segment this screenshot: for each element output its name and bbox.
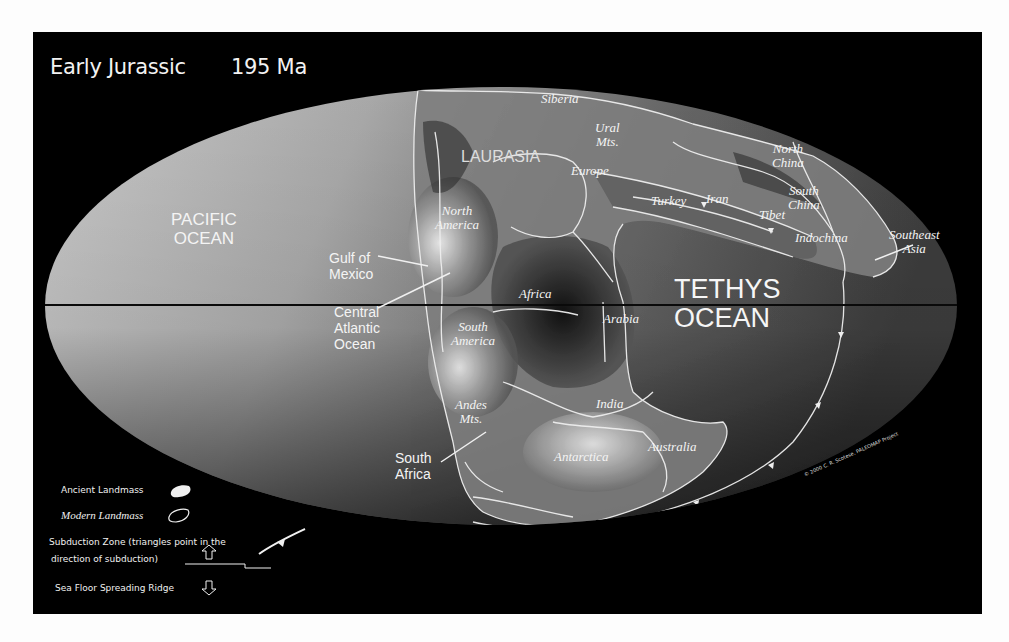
ancient-landmass-swatch [171, 485, 191, 497]
tibet-label: Tibet [759, 208, 785, 222]
iran-label: Iran [706, 192, 728, 206]
map-panel: Early Jurassic 195 Ma [33, 32, 982, 614]
modern-landmass-swatch [169, 509, 189, 522]
south-china-label: SouthChina [788, 184, 820, 212]
legend-ridge: Sea Floor Spreading Ridge [55, 583, 174, 593]
legend-subduction-line2: direction of subduction) [51, 554, 158, 564]
legend-subduction-line1: Subduction Zone (triangles point in the [49, 537, 226, 547]
southeast-asia-label: SoutheastAsia [889, 228, 940, 256]
siberia-label: Siberia [541, 92, 579, 106]
north-america-label: NorthAmerica [435, 204, 479, 232]
central-atlantic-label: CentralAtlanticOcean [334, 304, 380, 352]
antarctica-label: Antarctica [554, 450, 608, 464]
ural-mts-label: UralMts. [595, 121, 620, 149]
pacific-ocean-label: PACIFICOCEAN [171, 210, 237, 248]
south-africa-label: SouthAfrica [395, 450, 432, 482]
arrow-up-icon [202, 545, 216, 559]
legend-modern-landmass: Modern Landmass [61, 509, 143, 521]
south-america-label: SouthAmerica [451, 320, 495, 348]
legend-ancient-landmass: Ancient Landmass [61, 485, 144, 495]
australia-label: Australia [648, 440, 696, 454]
north-china-label: NorthChina [772, 142, 804, 170]
tethys-ocean-label: TETHYSOCEAN [674, 275, 781, 333]
india-label: India [596, 397, 623, 411]
indochina-label: Indochina [795, 231, 848, 245]
europe-label: Europe [571, 164, 609, 178]
africa-label: Africa [519, 287, 552, 301]
arabia-label: Arabia [603, 312, 639, 326]
spreading-ridge-swatch [185, 564, 271, 568]
andes-mts-label: AndesMts. [455, 398, 487, 426]
laurasia-label: LAURASIA [461, 149, 540, 165]
turkey-label: Turkey [651, 194, 686, 208]
paleogeographic-map [33, 32, 982, 614]
gulf-of-mexico-label: Gulf ofMexico [329, 250, 373, 282]
arrow-down-icon [202, 581, 216, 595]
